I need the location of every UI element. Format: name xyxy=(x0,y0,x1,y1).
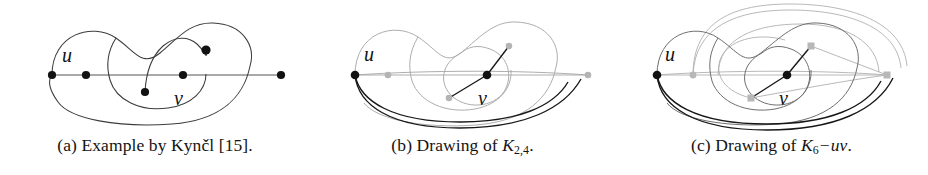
figure-row: u v (a) Example by Kynčl [15]. xyxy=(0,0,928,175)
caption-a: (a) Example by Kynčl [15]. xyxy=(57,137,253,155)
vertex-b2 xyxy=(385,72,392,79)
edge-v-to-upper-c xyxy=(787,46,811,75)
edge-outer-upper-a xyxy=(52,23,251,75)
caption-c-symbol: K xyxy=(801,135,813,155)
caption-c: (c) Drawing of K6−uv. xyxy=(691,137,852,155)
vertex-a6 xyxy=(277,71,285,79)
caption-c-minus: − xyxy=(819,135,831,155)
edge-u-bottom-outer-b xyxy=(355,75,581,128)
caption-b-tail: . xyxy=(529,135,533,155)
edge-low-to-right-c xyxy=(751,75,887,98)
vertex-c5-high xyxy=(808,43,815,50)
vertex-b6 xyxy=(585,72,592,79)
edges-c-dark xyxy=(657,46,893,130)
edge-inner-lower-c xyxy=(710,38,811,110)
vertices-c xyxy=(653,43,891,102)
edge-inner-arc-c xyxy=(718,24,879,75)
subfigure-b: u v (b) Drawing of K2,4. xyxy=(310,0,615,175)
vertex-v-a xyxy=(179,71,187,79)
subfigure-a: u v (a) Example by Kynčl [15]. xyxy=(0,0,310,175)
caption-b: (b) Drawing of K2,4. xyxy=(391,137,533,155)
edge-inner-circle-b xyxy=(444,46,509,105)
vertex-c6 xyxy=(884,72,891,79)
caption-b-lead: (b) Drawing of xyxy=(391,135,502,155)
vertex-v-b xyxy=(483,71,492,80)
caption-b-subscript: 2,4 xyxy=(514,143,529,157)
vertex-u-b xyxy=(351,71,360,80)
drawing-b: u v xyxy=(310,0,615,136)
vertices-a xyxy=(48,45,285,96)
edge-outer-upper-b xyxy=(355,22,557,75)
graph-drawing-a: u v xyxy=(0,0,310,136)
vertex-label-u-a: u xyxy=(62,44,72,66)
edge-v-right-ray-c xyxy=(811,46,887,75)
edges-b-dark xyxy=(355,46,581,128)
vertex-c2 xyxy=(690,72,697,79)
caption-c-tail: . xyxy=(847,135,851,155)
vertex-u-a xyxy=(48,71,56,79)
edge-inner-a xyxy=(145,38,206,92)
drawing-a: u v xyxy=(0,0,310,136)
caption-b-symbol: K xyxy=(502,135,514,155)
vertex-label-v-b: v xyxy=(478,87,487,109)
vertex-c3-low xyxy=(748,95,755,102)
caption-a-text: (a) Example by Kynčl [15]. xyxy=(57,135,253,155)
vertex-a2 xyxy=(82,71,90,79)
vertex-b5-high xyxy=(506,43,513,50)
subfigure-c: u v (c) Drawing of K6−uv. xyxy=(615,0,928,175)
caption-c-subscript: 6 xyxy=(813,143,819,157)
vertex-a3-low xyxy=(141,88,149,96)
vertex-label-u-b: u xyxy=(364,43,374,65)
vertex-v-c xyxy=(783,71,792,80)
caption-c-removed-edge: uv xyxy=(831,135,848,155)
edge-v-to-upper-b xyxy=(487,46,509,75)
graph-drawing-c: u v xyxy=(615,0,928,136)
edges-c-faint xyxy=(657,4,907,98)
edge-left-lobe-c xyxy=(657,23,858,75)
edge-cup-a xyxy=(108,38,206,109)
graph-drawing-b: u v xyxy=(310,0,615,136)
vertex-label-v-a: v xyxy=(174,87,183,109)
edge-outer-top-1-c xyxy=(693,4,907,75)
vertex-label-v-c: v xyxy=(779,87,788,109)
drawing-c: u v xyxy=(615,0,928,136)
vertex-labels-c: u v xyxy=(665,43,788,109)
vertex-u-c xyxy=(653,71,662,80)
edge-inner-loop-b xyxy=(410,37,511,110)
vertex-label-u-c: u xyxy=(665,43,675,65)
vertex-b3-low xyxy=(446,95,453,102)
caption-c-lead: (c) Drawing of xyxy=(691,135,801,155)
vertex-a5-high xyxy=(201,45,210,54)
vertex-labels-a: u v xyxy=(62,44,183,109)
